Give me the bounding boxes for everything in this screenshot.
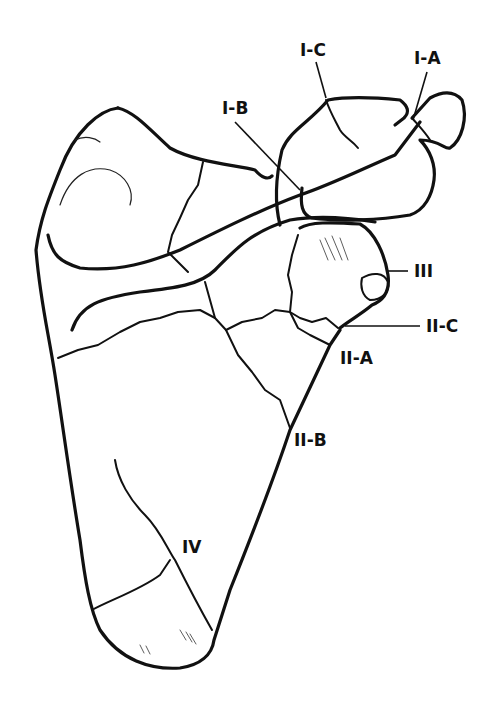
fracture-line-ii-network <box>205 282 338 330</box>
glenoid-process <box>300 223 388 328</box>
fracture-line-ii-b <box>290 312 330 345</box>
fracture-line-ii-vertical <box>288 235 298 312</box>
fracture-line-i-c <box>326 100 358 148</box>
spine-lower-ridge <box>72 217 375 330</box>
acromion-fragment-a <box>301 93 464 220</box>
label-ii-b: II-B <box>294 430 327 450</box>
supraspinous-contour <box>60 169 131 205</box>
fracture-line-i-b <box>168 162 203 272</box>
label-ii-c: II-C <box>426 316 458 336</box>
fracture-line-ii-a <box>226 330 290 428</box>
fracture-line-infraspinous <box>58 310 215 358</box>
glenoid-rim <box>361 274 388 300</box>
label-ii-a: II-A <box>340 348 374 368</box>
acromion-fragment-c <box>276 98 407 225</box>
scapula-diagram: I-C I-A I-B III II-C II-A II-B IV <box>0 0 502 705</box>
fracture-line-iv-transverse <box>92 560 170 610</box>
label-i-a: I-A <box>414 48 441 68</box>
superior-border <box>118 108 272 178</box>
leader-i-a <box>413 72 427 120</box>
leader-i-b <box>235 122 300 190</box>
label-iii: III <box>414 261 433 281</box>
label-i-b: I-B <box>222 98 248 118</box>
label-iv: IV <box>182 537 202 557</box>
supraspinous-contour-2 <box>75 137 100 142</box>
spine-upper-ridge <box>48 122 420 269</box>
leader-i-c <box>316 62 326 98</box>
label-i-c: I-C <box>300 40 326 60</box>
